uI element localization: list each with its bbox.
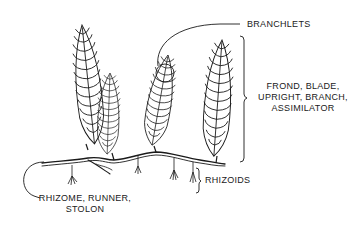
rhizoids [68, 156, 196, 185]
rhizoids-brace [196, 168, 201, 193]
label-branchlets: BRANCHLETS [247, 19, 311, 30]
label-rhizome-line2: STOLON [30, 204, 140, 215]
frond-3 [140, 53, 180, 152]
label-frond-line1: FROND, BLADE, [247, 81, 359, 92]
label-rhizoids: RHIZOIDS [205, 175, 250, 186]
label-frond-line3: ASSIMILATOR [247, 103, 359, 114]
rhizome [42, 152, 225, 174]
frond-2 [96, 73, 121, 160]
frond-1 [69, 24, 107, 150]
label-rhizome-line1: RHIZOME, RUNNER, [30, 193, 140, 204]
frond-brace [240, 36, 247, 162]
frond-4 [200, 39, 235, 163]
label-frond-line2: UPRIGHT, BRANCH, [247, 92, 359, 103]
